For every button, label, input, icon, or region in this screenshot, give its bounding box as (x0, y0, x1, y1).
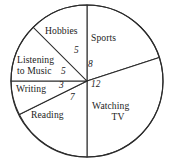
slice-value-reading: 7 (70, 93, 75, 103)
slice-value-sports: 8 (88, 60, 93, 70)
slice-value-hobbies: 5 (74, 46, 79, 56)
slice-value-writing: 3 (59, 81, 64, 91)
slice-label-listening-to-music-line2: to Music (17, 66, 52, 76)
slice-value-watching-tv: 12 (91, 80, 100, 90)
pie-chart: Sports 8 Watching TV 12 Reading 7 Writin… (0, 0, 173, 164)
slice-label-listening-to-music-line1: Listening (17, 55, 54, 65)
slice-label-hobbies: Hobbies (45, 26, 78, 36)
slice-label-sports: Sports (91, 33, 116, 43)
pie-chart-graphic (0, 0, 173, 164)
slice-label-watching-tv-line2: TV (92, 112, 144, 122)
slice-label-writing: Writing (16, 84, 46, 94)
slice-label-watching-tv-line1: Watching (92, 101, 129, 111)
slice-value-listening-to-music: 5 (61, 67, 66, 77)
slice-label-reading: Reading (31, 110, 64, 120)
